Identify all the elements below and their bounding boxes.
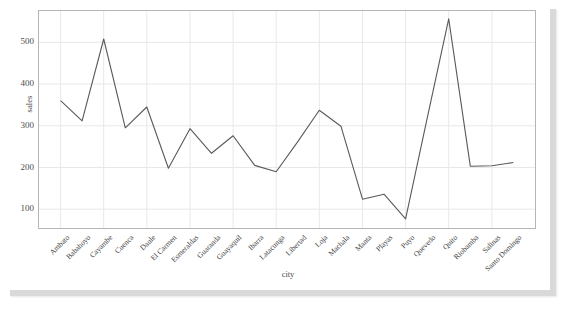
gridlines xyxy=(39,11,535,228)
plot-area-wrapper: sales city 100200300400500 AmbatoBabahoy… xyxy=(4,3,550,290)
chart-panel: sales city 100200300400500 AmbatoBabahoy… xyxy=(4,3,550,290)
line-chart-svg xyxy=(4,3,550,290)
sales-line-series xyxy=(61,19,514,219)
plot-border xyxy=(39,11,536,229)
figure: sales city 100200300400500 AmbatoBabahoy… xyxy=(0,0,565,309)
